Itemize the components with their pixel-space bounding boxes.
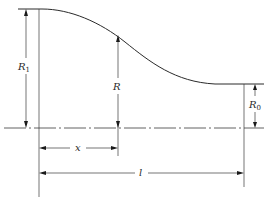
r0-dimension: R0 bbox=[248, 84, 261, 128]
arrow-up-icon bbox=[24, 9, 28, 16]
l-dimension: l bbox=[39, 167, 244, 178]
arrow-left-icon bbox=[39, 146, 46, 150]
arrow-down-icon bbox=[24, 121, 28, 128]
arrow-up-icon bbox=[253, 84, 257, 90]
tapered-profile-diagram: R1 R R0 x l bbox=[0, 0, 270, 202]
arrow-left-icon bbox=[39, 171, 46, 175]
arrow-right-icon bbox=[237, 171, 244, 175]
arrow-down-icon bbox=[253, 122, 257, 128]
r1-dimension: R1 bbox=[17, 9, 30, 128]
r-label: R bbox=[112, 81, 121, 92]
arrow-down-icon bbox=[116, 121, 120, 128]
x-dimension: x bbox=[39, 142, 118, 153]
r-dimension: R bbox=[112, 35, 121, 156]
r0-label: R0 bbox=[248, 99, 261, 112]
r1-label: R1 bbox=[17, 61, 30, 74]
l-label: l bbox=[139, 167, 142, 178]
profile-curve bbox=[18, 9, 264, 84]
x-label: x bbox=[75, 142, 81, 153]
arrow-right-icon bbox=[111, 146, 118, 150]
